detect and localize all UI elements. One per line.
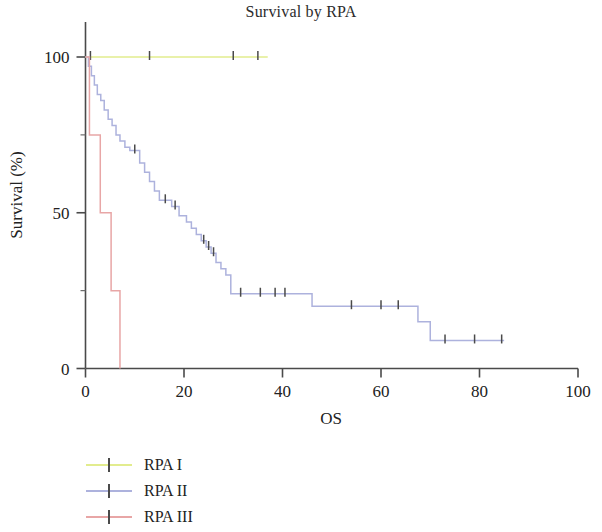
- legend-swatch-icon: [86, 457, 132, 473]
- y-tick-label-0: 0: [61, 360, 70, 379]
- survival-curve-line: [86, 57, 505, 340]
- y-tick-label-100: 100: [44, 48, 70, 67]
- x-tick-label-60: 60: [373, 382, 390, 401]
- legend-label: RPA I: [144, 456, 182, 474]
- legend: RPA IRPA IIRPA III: [86, 452, 346, 530]
- x-tick-label-40: 40: [274, 382, 291, 401]
- legend-label: RPA II: [144, 482, 187, 500]
- x-ticks-group: 020406080100: [81, 369, 591, 401]
- legend-item-rpa-iii[interactable]: RPA III: [86, 504, 346, 530]
- survival-curve-line: [86, 57, 120, 369]
- legend-swatch-icon: [86, 483, 132, 499]
- legend-item-rpa-ii[interactable]: RPA II: [86, 478, 346, 504]
- y-tick-label-50: 50: [53, 204, 70, 223]
- y-axis-title: Survival (%): [7, 151, 26, 238]
- legend-censor-tick-icon: [108, 458, 110, 472]
- x-tick-label-100: 100: [565, 382, 591, 401]
- legend-label: RPA III: [144, 508, 193, 526]
- y-ticks-group: 050100: [44, 48, 86, 379]
- legend-swatch-icon: [86, 509, 132, 525]
- series-group: [86, 51, 505, 369]
- legend-censor-tick-icon: [108, 510, 110, 524]
- x-tick-label-0: 0: [81, 382, 90, 401]
- series-rpa-i: [86, 51, 268, 60]
- series-rpa-iii: [86, 57, 120, 369]
- legend-item-rpa-i[interactable]: RPA I: [86, 452, 346, 478]
- legend-censor-tick-icon: [108, 484, 110, 498]
- x-tick-label-80: 80: [471, 382, 488, 401]
- x-axis-title: OS: [320, 409, 342, 428]
- x-tick-label-20: 20: [176, 382, 193, 401]
- series-rpa-ii: [86, 57, 505, 343]
- survival-chart-figure: Survival by RPA 050100 020406080100 OS S…: [0, 0, 602, 532]
